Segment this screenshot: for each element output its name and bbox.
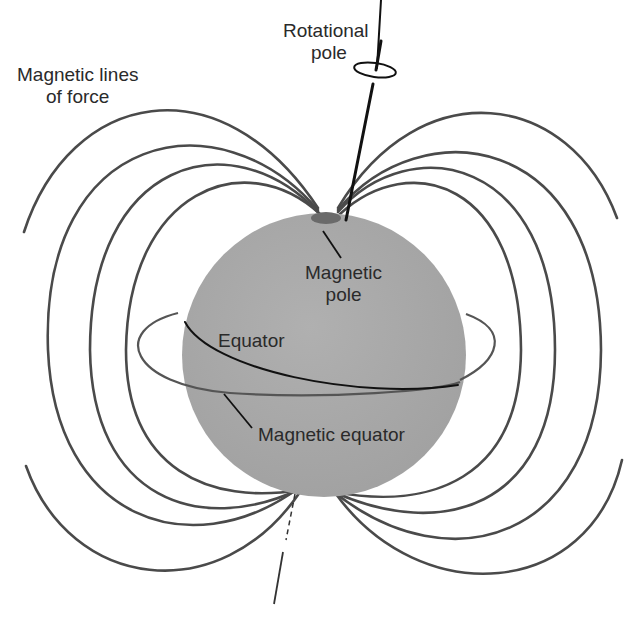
magnetic-pole-cap: [311, 212, 341, 224]
label-magnetic-pole: Magnetic pole: [305, 262, 382, 306]
label-rotational-pole: Rotational pole: [283, 20, 369, 64]
label-line: pole: [305, 284, 382, 306]
label-line: Magnetic: [305, 262, 382, 284]
label-line: Magnetic lines: [17, 64, 138, 86]
label-magnetic-equator: Magnetic equator: [258, 424, 405, 446]
label-line: of force: [17, 86, 138, 108]
label-line: Rotational: [283, 20, 369, 42]
label-line: pole: [283, 42, 369, 64]
magnetic-field-diagram: Magnetic lines of force Rotational pole …: [0, 0, 638, 623]
label-magnetic-lines-of-force: Magnetic lines of force: [17, 64, 138, 108]
label-equator: Equator: [218, 330, 285, 352]
